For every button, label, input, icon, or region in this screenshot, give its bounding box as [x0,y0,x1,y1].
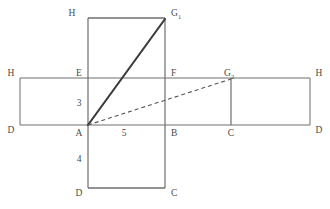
label-F: F [171,68,176,78]
dimension-depth-4: 4 [77,154,82,164]
label-G2: G2 [224,68,234,80]
label-H-top-left: H [69,8,76,18]
label-D-lower: D [76,188,83,198]
label-H-mid-right: H [316,68,323,78]
lower-face-rectangle [88,125,165,188]
net-diagram-svg: H G1 H E F G2 H D A B C D D C 3 5 4 [0,0,330,209]
label-H-mid-left: H [8,68,15,78]
label-A: A [76,128,83,138]
label-G1: G1 [171,8,181,20]
diagram-canvas: H G1 H E F G2 H D A B C D D C 3 5 4 [0,0,330,209]
label-D-band-left: D [8,125,15,135]
dimension-height-3: 3 [77,98,82,108]
path-a-to-g2 [88,79,231,125]
upper-face-rectangle [88,18,165,78]
label-G1-subscript: 1 [178,13,181,20]
label-C-band: C [228,128,234,138]
label-D-band-right: D [316,125,323,135]
dimension-width-5: 5 [122,128,127,138]
label-C-lower: C [171,188,177,198]
label-B: B [171,128,177,138]
label-G2-subscript: 2 [231,73,234,80]
path-a-to-g1 [88,19,165,125]
label-E: E [76,68,82,78]
